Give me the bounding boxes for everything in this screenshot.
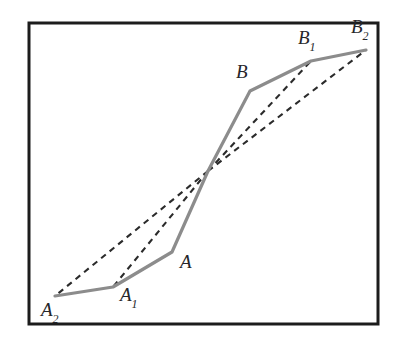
label-A2-base: A xyxy=(41,299,53,320)
label-B1: B1 xyxy=(298,28,316,50)
label-B1-base: B xyxy=(298,27,310,48)
solid-polyline xyxy=(55,50,366,296)
label-A1-subscript: 1 xyxy=(132,297,138,311)
dash-to-A1 xyxy=(113,171,208,287)
label-A: A xyxy=(180,252,192,271)
label-A2-subscript: 2 xyxy=(53,312,59,326)
label-B: B xyxy=(236,62,248,81)
label-A2: A2 xyxy=(41,300,59,322)
figure-container: A2A1ABB1B2 xyxy=(0,0,400,345)
dash-to-B2 xyxy=(208,50,366,171)
label-B2-base: B xyxy=(351,16,363,37)
figure-canvas xyxy=(0,0,400,345)
label-A1: A1 xyxy=(120,285,138,307)
label-A-base: A xyxy=(180,251,192,272)
dash-to-B1 xyxy=(208,61,311,171)
dashed-chords-group xyxy=(55,50,366,296)
label-B2: B2 xyxy=(351,17,369,39)
label-B2-subscript: 2 xyxy=(363,29,369,43)
label-A1-base: A xyxy=(120,284,132,305)
label-B1-subscript: 1 xyxy=(310,40,316,54)
label-B-base: B xyxy=(236,61,248,82)
